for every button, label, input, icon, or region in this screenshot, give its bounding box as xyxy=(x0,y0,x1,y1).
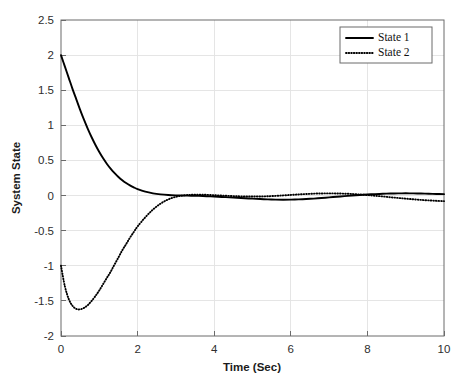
y-tick-label: -1 xyxy=(44,260,54,272)
y-tick-label: 0 xyxy=(48,190,54,202)
y-tick-label: 1.5 xyxy=(38,84,54,96)
y-axis-title: System State xyxy=(10,142,22,214)
y-tick-label: -0.5 xyxy=(34,225,54,237)
y-tick-label: 1 xyxy=(48,119,54,131)
y-tick-label: 2 xyxy=(48,49,54,61)
y-tick-label: -1.5 xyxy=(34,295,54,307)
y-tick-label: 2.5 xyxy=(38,14,54,26)
legend-label-2: State 2 xyxy=(378,46,410,58)
x-axis-title: Time (Sec) xyxy=(223,361,281,373)
chart-figure: 2.521.510.50-0.5-1-1.5-2 0246810 Time (S… xyxy=(0,0,466,384)
x-tick-label: 10 xyxy=(438,343,451,355)
x-tick-label: 4 xyxy=(211,343,218,355)
y-tick-label: 0.5 xyxy=(38,154,54,166)
y-tick-label: -2 xyxy=(44,330,54,342)
x-tick-label: 2 xyxy=(134,343,140,355)
x-tick-label: 0 xyxy=(58,343,64,355)
system-state-line-chart: 2.521.510.50-0.5-1-1.5-2 0246810 Time (S… xyxy=(0,0,466,384)
chart-legend[interactable]: State 1State 2 xyxy=(340,27,432,63)
x-tick-label: 6 xyxy=(288,343,294,355)
legend-label-1: State 1 xyxy=(378,31,410,43)
x-tick-label: 8 xyxy=(364,343,370,355)
